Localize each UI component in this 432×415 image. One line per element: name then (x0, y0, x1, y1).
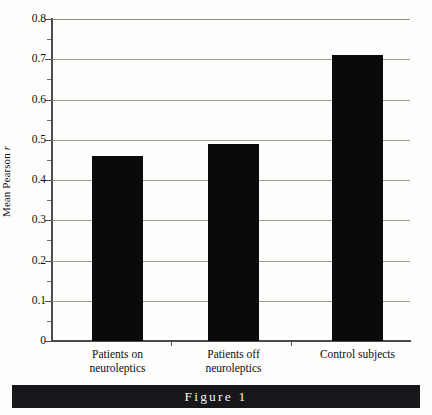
category-label-line2: neuroleptics (58, 361, 178, 375)
plot-area (52, 19, 410, 341)
x-axis-category-label: Control subjects (298, 347, 418, 361)
figure-caption-label: Figure 1 (12, 385, 420, 408)
y-axis-title-prefix: Mean Pearson (0, 150, 12, 217)
y-axis-tick-label: 0.1 (2, 295, 46, 307)
figure-container: 0.80.70.60.50.40.30.20.10 Mean Pearson r… (0, 0, 432, 415)
category-label-line1: Control subjects (320, 348, 395, 360)
x-axis-tick (291, 341, 292, 346)
bar (332, 55, 383, 341)
y-axis-tick-label: 0.2 (2, 255, 46, 267)
x-axis-tick (171, 341, 172, 346)
category-label-line1: Patients on (92, 348, 143, 360)
y-axis-title-symbol: r (0, 145, 12, 149)
category-label-line2: neuroleptics (174, 361, 294, 375)
bar (208, 144, 259, 341)
category-label-line1: Patients off (207, 348, 260, 360)
figure-caption-bar: Figure 1 (12, 385, 420, 408)
y-axis-tick-label: 0.6 (2, 94, 46, 106)
bar (92, 156, 143, 341)
y-axis-tick-label: 0.8 (2, 13, 46, 25)
y-axis-title: Mean Pearson r (0, 121, 14, 241)
x-axis-category-label: Patients offneuroleptics (174, 347, 294, 375)
x-axis-category-label: Patients onneuroleptics (58, 347, 178, 375)
gridline (52, 19, 410, 20)
y-axis-tick-label: 0 (2, 335, 46, 347)
y-axis-tick-label: 0.7 (2, 54, 46, 66)
